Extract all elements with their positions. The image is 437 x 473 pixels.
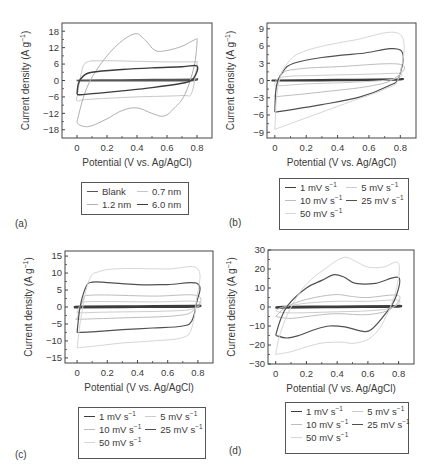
legend-label: 5 mV s−1: [367, 406, 404, 417]
legend-item: 25 mV s−1: [145, 424, 202, 435]
legend-swatch: [137, 191, 148, 192]
legend-label: 50 mV s−1: [300, 208, 342, 219]
y-tick-label: −15: [46, 352, 62, 363]
legend-label: 10 mV s−1: [306, 419, 348, 430]
legend-label: 5 mV s−1: [361, 182, 398, 193]
y-tick-label: 18: [48, 26, 59, 37]
legend-swatch: [285, 213, 296, 214]
panel-d: 3020100−10−20−3000.20.40.60.8Potential (…: [218, 235, 437, 473]
x-axis-label: Potential (V vs. Ag/AgCl): [82, 157, 192, 168]
x-tick-label: 0.4: [331, 142, 344, 153]
x-tick-label: 0.2: [300, 142, 313, 153]
y-tick-label: −3: [253, 92, 264, 103]
legend-item: 25 mV s−1: [346, 195, 403, 206]
x-tick-label: 0.4: [331, 368, 344, 379]
legend-swatch: [145, 416, 156, 417]
x-tick-label: 0.4: [130, 142, 143, 153]
y-tick-label: 9: [259, 23, 264, 34]
y-tick-label: −6: [48, 91, 59, 102]
y-tick-label: −6: [253, 109, 264, 120]
panel-a: 181260−6−12−1800.20.40.60.8Potential (V …: [0, 0, 218, 235]
x-tick-label: 0.6: [362, 142, 375, 153]
x-axis-label: Potential (V vs. Ag/AgCl): [287, 157, 397, 168]
y-tick-label: 20: [254, 263, 265, 274]
legend-label: 10 mV s−1: [99, 424, 141, 435]
curves: [74, 267, 201, 348]
legend-d: 1 mV s−15 mV s−110 mV s−125 mV s−150 mV …: [285, 402, 409, 454]
panel-label-a: (a): [15, 218, 27, 229]
legend-item: 1 mV s−1: [84, 411, 141, 422]
curves: [272, 32, 404, 129]
panel-b: 9630−3−6−900.20.40.60.8Potential (V vs. …: [218, 0, 437, 235]
legend-swatch: [87, 191, 98, 192]
legend-item: 50 mV s−1: [285, 208, 342, 219]
legend-label: 50 mV s−1: [99, 437, 141, 448]
cv-curve: [74, 305, 200, 307]
y-tick-label: −5: [51, 318, 62, 329]
y-tick-label: 10: [254, 282, 265, 293]
legend-label: 0.7 nm: [152, 186, 181, 197]
legend-swatch: [352, 411, 363, 412]
legend-label: 25 mV s−1: [160, 424, 202, 435]
legend-swatch: [346, 200, 357, 201]
legend-label: 6.0 nm: [152, 199, 181, 210]
y-axis-label: Current density (A g−1): [19, 31, 31, 131]
x-tick-label: 0.6: [161, 367, 174, 378]
y-tick-label: −10: [249, 320, 265, 331]
legend-item: 5 mV s−1: [352, 406, 409, 417]
legend-item: 50 mV s−1: [84, 437, 141, 448]
panel-label-b: (b): [229, 217, 241, 228]
legend-label: Blank: [102, 186, 126, 197]
x-tick-label: 0.6: [361, 368, 374, 379]
x-tick-label: 0: [273, 368, 278, 379]
legend-swatch: [346, 187, 357, 188]
legend-swatch: [84, 429, 95, 430]
legend-swatch: [137, 204, 148, 205]
legend-item: 5 mV s−1: [346, 182, 403, 193]
x-tick-label: 0.2: [101, 367, 114, 378]
y-tick-label: −10: [46, 335, 62, 346]
y-tick-label: 6: [54, 58, 59, 69]
y-tick-label: 0: [259, 75, 264, 86]
legend-item: 0.7 nm: [137, 186, 183, 197]
legend-label: 25 mV s−1: [361, 195, 403, 206]
legend-label: 5 mV s−1: [160, 411, 197, 422]
y-tick-label: 5: [57, 284, 62, 295]
x-tick-label: 0.2: [100, 142, 113, 153]
legend-swatch: [87, 204, 98, 205]
legend-a: Blank0.7 nm1.2 nm6.0 nm: [81, 182, 189, 215]
x-axis-label: Potential (V vs. Ag/AgCl): [286, 383, 396, 394]
legend-item: 1 mV s−1: [291, 406, 348, 417]
y-tick-label: −18: [43, 124, 59, 135]
legend-item: 1.2 nm: [87, 199, 133, 210]
legend-label: 1 mV s−1: [306, 406, 343, 417]
y-tick-label: 3: [259, 58, 264, 69]
legend-item: 1 mV s−1: [285, 182, 342, 193]
y-tick-label: 0: [57, 301, 62, 312]
x-tick-label: 0: [272, 142, 277, 153]
cv-curve: [276, 306, 402, 308]
x-tick-label: 0.8: [394, 142, 407, 153]
legend-item: 10 mV s−1: [84, 424, 141, 435]
panel-c: 151050−5−10−1500.20.40.60.8Potential (V …: [0, 235, 218, 473]
legend-swatch: [285, 200, 296, 201]
x-tick-label: 0.8: [392, 368, 405, 379]
panel-label-d: (d): [229, 445, 241, 456]
y-tick-label: 10: [51, 267, 62, 278]
y-axis-label: Current density (A g−1): [225, 257, 237, 357]
y-tick-label: −12: [43, 108, 59, 119]
y-tick-label: 30: [254, 244, 265, 255]
legend-label: 1 mV s−1: [99, 411, 136, 422]
legend-swatch: [291, 424, 302, 425]
y-tick-label: 15: [51, 250, 62, 261]
y-tick-label: 6: [259, 40, 264, 51]
legend-b: 1 mV s−15 mV s−110 mV s−125 mV s−150 mV …: [279, 178, 409, 230]
y-tick-label: −30: [249, 358, 265, 369]
cv-curve: [77, 79, 198, 81]
legend-item: 10 mV s−1: [285, 195, 342, 206]
curves: [276, 257, 402, 354]
legend-label: 50 mV s−1: [306, 432, 348, 443]
legend-item: Blank: [87, 186, 133, 197]
legend-item: 10 mV s−1: [291, 419, 348, 430]
x-tick-label: 0.2: [300, 368, 313, 379]
